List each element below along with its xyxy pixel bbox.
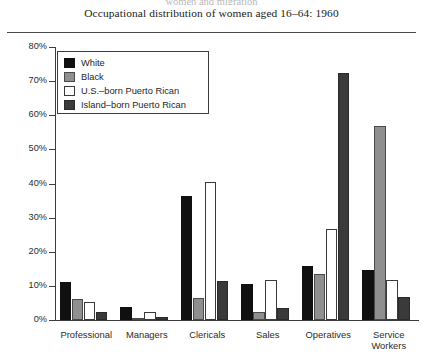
x-axis-category-label-line: Workers [353,340,423,351]
bar [302,266,314,320]
legend-swatch-icon [64,100,75,110]
y-axis-tick-label-wrap: 70% [0,75,47,85]
y-axis-tick-label: 70% [3,75,47,85]
bar [386,280,398,320]
y-axis-tick [49,47,55,48]
y-axis-tick-label-wrap: 80% [0,41,47,51]
x-axis-category-label-line: Service [353,329,423,340]
y-axis-tick [49,115,55,116]
bar-chart: 80%70%60%50%40%30%20%10%0% ProfessionalM… [0,0,423,362]
bar [217,281,229,320]
legend-item-label: White [81,58,105,68]
bar [132,318,144,320]
bar [374,126,386,320]
y-axis-tick-label: 0% [3,314,47,324]
legend-swatch-icon [64,58,75,68]
legend-item: U.S.–born Puerto Rican [64,84,179,97]
y-axis-tick-label-wrap: 20% [0,246,47,256]
y-axis-tick-label: 50% [3,143,47,153]
bar [84,302,96,320]
y-axis-tick [49,218,55,219]
bar [205,182,217,320]
y-axis-tick-label-wrap: 50% [0,143,47,153]
bar [72,299,84,320]
bar [60,282,72,320]
y-axis-tick [49,320,55,321]
chart-legend: WhiteBlackU.S.–born Puerto RicanIsland–b… [57,51,209,114]
legend-swatch-icon [64,72,75,82]
bar [253,312,265,320]
legend-item: Island–born Puerto Rican [64,98,186,111]
x-axis-category-label: ServiceWorkers [353,329,423,351]
legend-item-label: Black [81,72,104,82]
y-axis-tick [49,252,55,253]
y-axis-tick-label: 30% [3,212,47,222]
y-axis-tick-label: 40% [3,178,47,188]
y-axis-tick [49,81,55,82]
bar [338,73,350,320]
bar [362,270,374,320]
bar [277,308,289,320]
y-axis-tick [49,184,55,185]
legend-item-label: Island–born Puerto Rican [81,100,186,110]
legend-item: White [64,56,105,69]
y-axis-tick [49,149,55,150]
y-axis-tick-label: 80% [3,41,47,51]
bar [241,284,253,320]
y-axis-tick-label-wrap: 10% [0,280,47,290]
bar [144,312,156,320]
y-axis-tick-label-wrap: 30% [0,212,47,222]
bar [96,312,108,320]
y-axis-tick-label-wrap: 0% [0,314,47,324]
bar [265,280,277,320]
legend-item: Black [64,70,104,83]
y-axis-tick-label: 20% [3,246,47,256]
y-axis-line [55,47,56,321]
y-axis-tick-label-wrap: 40% [0,178,47,188]
bar [120,307,132,320]
bar [326,229,338,320]
x-axis-line [55,320,419,321]
bar [398,297,410,320]
legend-item-label: U.S.–born Puerto Rican [81,86,179,96]
y-axis-tick [49,286,55,287]
y-axis-tick-label: 10% [3,280,47,290]
bar [193,298,205,320]
bar [156,317,168,320]
y-axis-tick-label-wrap: 60% [0,109,47,119]
legend-swatch-icon [64,86,75,96]
bar [314,274,326,320]
bar [181,196,193,320]
y-axis-tick-label: 60% [3,109,47,119]
